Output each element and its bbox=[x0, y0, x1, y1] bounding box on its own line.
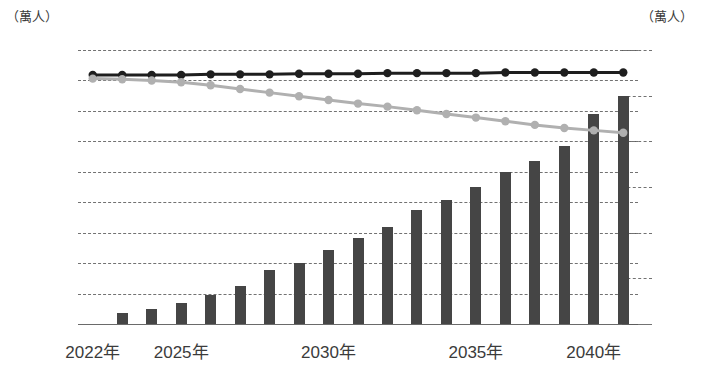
chart-container: （萬人） （萬人） 450400350300250200150100500 12… bbox=[0, 0, 713, 382]
bar bbox=[588, 114, 599, 324]
bar bbox=[500, 172, 511, 324]
bar bbox=[470, 187, 481, 324]
bar bbox=[235, 286, 246, 324]
left-axis-unit-label: （萬人） bbox=[6, 6, 58, 25]
bar bbox=[382, 227, 393, 324]
bar-series-layer bbox=[78, 50, 638, 324]
plot-area: 450400350300250200150100500 120100806040… bbox=[78, 50, 638, 324]
bar bbox=[264, 270, 275, 324]
bar bbox=[205, 295, 216, 324]
bar bbox=[117, 313, 128, 324]
bar bbox=[294, 263, 305, 324]
x-axis-tick-label: 2040年 bbox=[566, 338, 621, 363]
bar bbox=[411, 210, 422, 324]
bar bbox=[323, 250, 334, 324]
axis-baseline bbox=[78, 324, 638, 325]
x-axis-tick-label: 2030年 bbox=[301, 338, 356, 363]
x-axis-tick-label: 2025年 bbox=[154, 338, 209, 363]
bar bbox=[529, 161, 540, 324]
bar bbox=[441, 200, 452, 324]
bar bbox=[618, 96, 629, 324]
right-axis-unit-label: （萬人） bbox=[641, 6, 693, 25]
bar bbox=[146, 309, 157, 324]
right-axis-tick-mark bbox=[622, 324, 652, 325]
bar bbox=[559, 146, 570, 324]
bar bbox=[353, 238, 364, 324]
x-axis-tick-label: 2035年 bbox=[448, 338, 503, 363]
x-axis-tick-label: 2022年 bbox=[65, 338, 120, 363]
bar bbox=[176, 303, 187, 324]
